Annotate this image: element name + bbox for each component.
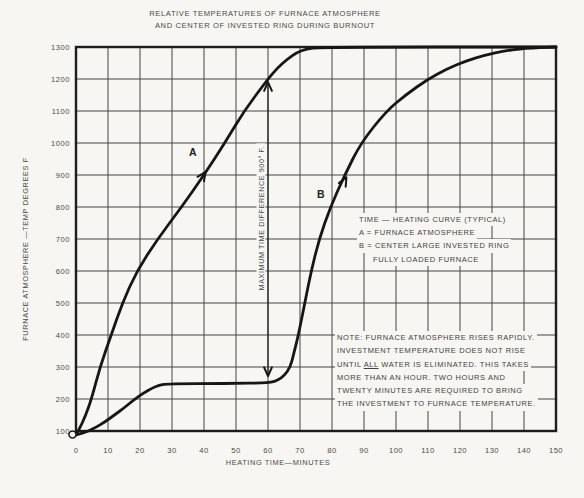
curve-b-label: B: [316, 188, 326, 200]
x-tick-label: 40: [192, 446, 216, 455]
x-tick-label: 20: [128, 446, 152, 455]
x-tick-label: 30: [160, 446, 184, 455]
note-line-1: NOTE: FURNACE ATMOSPHERE RISES RAPIDLY.: [335, 331, 537, 344]
x-tick-label: 50: [224, 446, 248, 455]
y-tick-label: 800: [28, 203, 70, 212]
x-tick-label: 70: [288, 446, 312, 455]
x-axis-title: HEATING TIME—MINUTES: [178, 458, 378, 467]
scanned-figure-page: RELATIVE TEMPERATURES OF FURNACE ATMOSPH…: [0, 0, 584, 498]
dimension-label: MAXIMUM TIME DIFFERENCE 900° F.: [257, 144, 266, 293]
note-line-5: TWENTY MINUTES ARE REQUIRED TO BRING: [335, 384, 525, 397]
y-tick-label: 1300: [28, 43, 70, 52]
y-tick-label: 700: [28, 235, 70, 244]
legend-line-b2: FULLY LOADED FURNACE: [371, 253, 481, 266]
x-tick-label: 140: [512, 446, 536, 455]
y-tick-label: 100: [28, 427, 70, 436]
y-tick-label: 1000: [28, 139, 70, 148]
legend: TIME — HEATING CURVE (TYPICAL) A = FURNA…: [357, 213, 511, 266]
x-tick-label: 130: [480, 446, 504, 455]
note-line-2: INVESTMENT TEMPERATURE DOES NOT RISE: [335, 344, 528, 357]
y-tick-label: 300: [28, 363, 70, 372]
x-tick-label: 120: [448, 446, 472, 455]
x-tick-label: 90: [352, 446, 376, 455]
note-line-4: MORE THAN AN HOUR. TWO HOURS AND: [335, 371, 508, 384]
y-axis-title: FURNACE ATMOSPHERE —TEMP DEGREES F: [21, 157, 30, 341]
y-tick-label: 1100: [28, 107, 70, 116]
legend-line-title: TIME — HEATING CURVE (TYPICAL): [357, 213, 508, 226]
y-tick-label: 900: [28, 171, 70, 180]
legend-line-b: B = CENTER LARGE INVESTED RING: [357, 239, 511, 252]
y-tick-label: 1200: [28, 75, 70, 84]
y-tick-label: 500: [28, 299, 70, 308]
x-tick-label: 80: [320, 446, 344, 455]
x-tick-label: 150: [544, 446, 568, 455]
x-tick-label: 10: [96, 446, 120, 455]
y-tick-label: 200: [28, 395, 70, 404]
note: NOTE: FURNACE ATMOSPHERE RISES RAPIDLY. …: [335, 331, 538, 411]
x-tick-label: 0: [64, 446, 88, 455]
curve-a-label: A: [188, 146, 198, 158]
note-line-3: UNTIL ALL WATER IS ELIMINATED. THIS TAKE…: [335, 358, 531, 371]
note-line-6: THE INVESTMENT TO FURNACE TEMPERATURE.: [335, 397, 538, 410]
origin-circle-icon: [69, 431, 76, 438]
underlined-word: ALL: [364, 360, 379, 369]
legend-line-a: A = FURNACE ATMOSPHERE: [357, 226, 477, 239]
x-tick-label: 110: [416, 446, 440, 455]
x-tick-label: 100: [384, 446, 408, 455]
x-tick-label: 60: [256, 446, 280, 455]
y-tick-label: 400: [28, 331, 70, 340]
y-tick-label: 600: [28, 267, 70, 276]
